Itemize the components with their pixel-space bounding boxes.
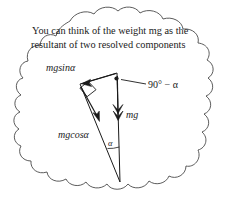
apex-angle-dot [114, 76, 118, 80]
mg-sin-alpha-label: mgsinα [46, 62, 76, 73]
physics-force-diagram: You can think of the weight mg as the re… [0, 0, 230, 198]
mg-label: mg [126, 109, 138, 120]
mg-cos-alpha-label: mgcosα [58, 129, 90, 140]
angle-bottom-label: α [108, 138, 113, 148]
caption-line-2: resultant of two resolved components [31, 39, 185, 50]
figure-container: You can think of the weight mg as the re… [0, 0, 230, 198]
caption-line-1: You can think of the weight mg as the [32, 25, 189, 36]
angle-top-label: 90° − α [148, 79, 179, 90]
